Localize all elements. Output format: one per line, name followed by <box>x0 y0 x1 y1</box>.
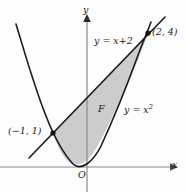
intersection-point-upper-right <box>145 30 150 35</box>
region-label-F: F <box>98 104 105 114</box>
parabola-equation-base: y = x <box>124 104 149 115</box>
x-axis-label: x <box>172 160 177 170</box>
figure-container: y = x+2 (2, 4) (−1, 1) y = x2 F y x O <box>0 0 185 192</box>
y-axis-arrowhead <box>83 14 91 22</box>
shaded-region-F <box>53 33 148 164</box>
line-equation-label: y = x+2 <box>94 36 133 46</box>
point-label-2-4: (2, 4) <box>152 27 178 37</box>
parabola-equation-exponent: 2 <box>149 103 153 111</box>
point-label-minus1-1: (−1, 1) <box>8 126 42 136</box>
y-axis-label: y <box>83 5 88 15</box>
origin-label: O <box>78 170 86 180</box>
intersection-point-lower-left <box>50 130 55 135</box>
parabola-equation-label: y = x2 <box>124 104 153 115</box>
